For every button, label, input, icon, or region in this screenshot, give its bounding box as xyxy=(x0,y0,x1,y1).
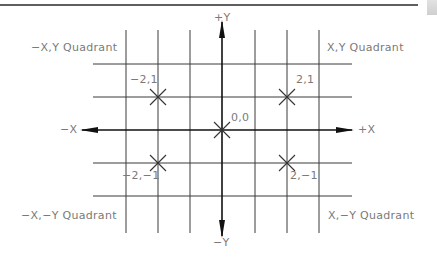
point-label-neg2-1: −2,1 xyxy=(130,74,158,86)
axis-label-neg-y: −Y xyxy=(213,237,230,249)
axis-label-pos-y: +Y xyxy=(214,12,231,24)
quadrant-label-bottom-right: X,−Y Quadrant xyxy=(328,210,414,222)
point-label-2-1: 2,1 xyxy=(296,74,314,86)
axis-label-pos-x: +X xyxy=(358,124,375,136)
quadrant-label-top-left: −X,Y Quadrant xyxy=(31,42,117,54)
arrow-right-icon xyxy=(336,127,354,133)
point-label-neg2-neg1: −2,−1 xyxy=(122,170,159,182)
quadrant-label-bottom-left: −X,−Y Quadrant xyxy=(21,210,117,222)
arrow-left-icon xyxy=(80,127,98,133)
axis-label-neg-x: −X xyxy=(60,124,77,136)
x-axis xyxy=(80,127,354,133)
y-axis xyxy=(219,20,225,238)
point-label-2-neg1: 2,−1 xyxy=(290,170,318,182)
point-label-0-0: 0,0 xyxy=(231,112,249,124)
quadrant-label-top-right: X,Y Quadrant xyxy=(327,42,404,54)
